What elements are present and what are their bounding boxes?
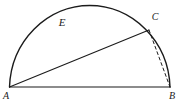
chord-ac bbox=[10, 30, 150, 87]
semicircle-arc bbox=[10, 5, 171, 87]
geometry-figure: A B C E bbox=[0, 0, 182, 105]
dashed-chord-cb bbox=[149, 30, 170, 87]
semicircle-diagram: A B C E bbox=[0, 0, 182, 105]
label-c: C bbox=[152, 11, 159, 22]
label-b: B bbox=[169, 90, 175, 101]
label-e: E bbox=[58, 16, 66, 28]
label-a: A bbox=[2, 90, 10, 101]
